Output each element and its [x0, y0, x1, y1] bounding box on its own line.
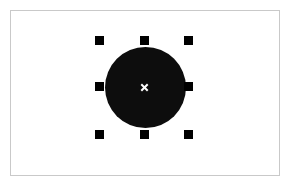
canvas-drawing-surface[interactable]: [11, 11, 279, 175]
middle-left-resize-handle[interactable]: [95, 82, 104, 91]
top-left-resize-handle[interactable]: [95, 36, 104, 45]
canvas-artboard-frame[interactable]: [10, 10, 280, 176]
bottom-center-resize-handle[interactable]: [140, 130, 149, 139]
top-right-resize-handle[interactable]: [184, 36, 193, 45]
bottom-left-resize-handle[interactable]: [95, 130, 104, 139]
top-center-resize-handle[interactable]: [140, 36, 149, 45]
bottom-right-resize-handle[interactable]: [184, 130, 193, 139]
middle-right-resize-handle[interactable]: [184, 82, 193, 91]
screenshot-root: [0, 0, 291, 187]
shape-ellipse[interactable]: [105, 47, 186, 128]
